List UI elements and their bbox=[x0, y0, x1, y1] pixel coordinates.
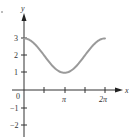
origin-label: 0 bbox=[16, 92, 20, 101]
x-tick-label-pi: π bbox=[62, 95, 67, 104]
x-axis-arrow-icon bbox=[115, 88, 123, 93]
y-tick-label-minus-1: −1 bbox=[10, 104, 19, 113]
y-axis-label: y bbox=[20, 4, 25, 13]
x-tick-label-2pi: 2π bbox=[99, 95, 108, 104]
cosine-curve bbox=[24, 38, 105, 72]
marker-dot bbox=[1, 11, 3, 13]
y-axis-arrow-icon bbox=[22, 13, 27, 21]
y-tick-label-2: 2 bbox=[14, 51, 18, 60]
y-tick-label-1: 1 bbox=[14, 68, 18, 77]
function-graph: y x 0 π 2π 3 2 1 −1 −2 bbox=[0, 0, 133, 137]
y-tick-label-3: 3 bbox=[14, 34, 18, 43]
x-axis-label: x bbox=[124, 86, 129, 95]
y-tick-label-minus-2: −2 bbox=[10, 121, 19, 130]
